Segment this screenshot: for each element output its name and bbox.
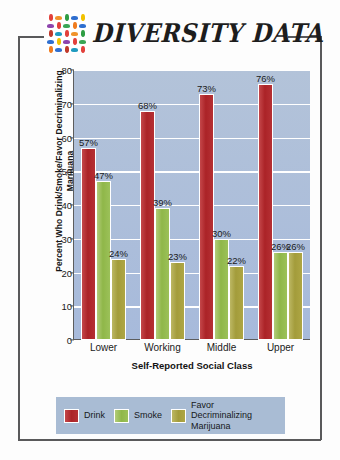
legend-swatch — [171, 409, 186, 423]
diversity-data-chart-page: DIVERSITY DATA Percent Who Drink/Smoke/F… — [0, 0, 340, 460]
bar-value-label: 22% — [227, 255, 246, 266]
legend-label: Drink — [84, 410, 105, 421]
bar-group: 73%30%22% — [198, 70, 246, 340]
frame-border-right — [320, 36, 322, 440]
bar-group: 68%39%23% — [139, 70, 187, 340]
y-axis-tick-label: 20 — [32, 267, 72, 278]
y-axis-tick-label: 40 — [32, 200, 72, 211]
bar[interactable]: 22% — [229, 266, 244, 340]
frame-border-left — [18, 36, 20, 440]
x-axis-tick-label: Middle — [198, 342, 246, 353]
bar-chart: Percent Who Drink/Smoke/Favor Decriminal… — [26, 60, 314, 390]
bar-group: 76%26%26% — [257, 70, 305, 340]
bar-value-label: 30% — [212, 228, 231, 239]
legend-swatch — [64, 409, 79, 423]
bar[interactable]: 26% — [273, 252, 288, 340]
bar[interactable]: 68% — [140, 111, 155, 341]
y-axis-tick-label: 0 — [32, 335, 72, 346]
x-axis-title: Self-Reported Social Class — [74, 360, 310, 371]
x-axis-tick-label: Lower — [80, 342, 128, 353]
bar[interactable]: 24% — [111, 259, 126, 340]
x-axis-tick-label: Upper — [257, 342, 305, 353]
chart-legend: DrinkSmokeFavor Decriminalizing Marijuan… — [56, 397, 285, 434]
bar-value-label: 57% — [79, 137, 98, 148]
legend-item[interactable]: Favor Decriminalizing Marijuana — [171, 400, 252, 432]
page-title: DIVERSITY DATA — [93, 17, 326, 47]
bar[interactable]: 47% — [96, 181, 111, 340]
x-axis-tick-label: Working — [139, 342, 187, 353]
y-axis-tick-label: 30 — [32, 233, 72, 244]
legend-label: Favor Decriminalizing Marijuana — [191, 400, 252, 432]
legend-swatch — [114, 409, 129, 423]
page-header: DIVERSITY DATA — [44, 8, 300, 56]
bar-groups: 57%47%24%68%39%23%73%30%22%76%26%26% — [74, 70, 310, 340]
bar-value-label: 73% — [197, 83, 216, 94]
y-axis-tick-label: 10 — [32, 301, 72, 312]
bar-value-label: 23% — [168, 251, 187, 262]
bar-value-label: 26% — [286, 241, 305, 252]
bar-group: 57%47%24% — [80, 70, 128, 340]
bar[interactable]: 39% — [155, 208, 170, 340]
bar-value-label: 24% — [109, 248, 128, 259]
x-axis-ticks: LowerWorkingMiddleUpper — [74, 342, 310, 353]
y-axis-tick-label: 70 — [32, 98, 72, 109]
bar-value-label: 68% — [138, 100, 157, 111]
bar[interactable]: 73% — [199, 94, 214, 340]
bar-value-label: 39% — [153, 197, 172, 208]
legend-item[interactable]: Drink — [64, 409, 105, 423]
y-axis-tick-label: 80 — [32, 65, 72, 76]
bar[interactable]: 76% — [258, 84, 273, 341]
bar[interactable]: 23% — [170, 262, 185, 340]
legend-item[interactable]: Smoke — [114, 409, 162, 423]
bar-value-label: 76% — [256, 73, 275, 84]
bar-value-label: 47% — [94, 170, 113, 181]
legend-label: Smoke — [134, 410, 162, 421]
diversity-mosaic-logo-icon — [44, 11, 88, 53]
y-axis-tick-label: 60 — [32, 132, 72, 143]
frame-border-bottom — [18, 439, 321, 441]
y-axis-tick-label: 50 — [32, 166, 72, 177]
bar[interactable]: 26% — [288, 252, 303, 340]
